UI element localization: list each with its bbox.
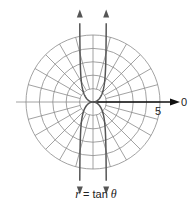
- arrow-upper-right-icon: [103, 10, 109, 18]
- caption-eq: = tan: [80, 188, 111, 200]
- arrow-upper-left-icon: [77, 10, 83, 18]
- polar-axis-label: 0: [181, 96, 187, 108]
- polar-graph: [0, 0, 192, 205]
- caption-theta: θ: [111, 187, 117, 201]
- radius-tick-label: 5: [155, 105, 161, 117]
- polar-axis-arrowhead: [170, 99, 180, 106]
- equation-caption: r = tan θ: [0, 187, 192, 202]
